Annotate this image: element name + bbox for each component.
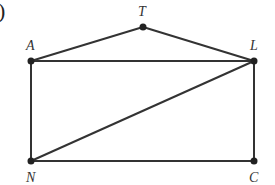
segment-NL [31,61,254,161]
paren-fragment: ) [0,0,5,23]
label-T: T [138,4,147,19]
label-A: A [25,38,35,53]
point-labels: ATLNC [25,4,259,185]
point-C [251,158,258,165]
label-L: L [249,38,258,53]
points [28,24,258,165]
label-N: N [25,170,36,185]
point-L [251,58,258,65]
point-T [140,24,147,31]
point-A [28,58,35,65]
segment-TL [143,27,254,61]
label-C: C [249,170,259,185]
segment-AT [31,27,143,61]
point-N [28,158,35,165]
geometry-diagram: ) ATLNC [0,0,275,185]
segments [31,27,254,161]
